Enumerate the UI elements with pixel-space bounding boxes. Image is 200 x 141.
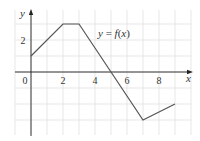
- x-tick-label: 8: [157, 75, 162, 86]
- y-axis-label: y: [19, 7, 25, 19]
- x-tick-label: 6: [125, 75, 130, 86]
- x-tick-label: 4: [93, 75, 98, 86]
- x-axis-label: x: [185, 72, 191, 84]
- x-tick-label: 0: [23, 75, 28, 86]
- y-axis-arrow-icon: [29, 9, 33, 15]
- function-label: y = f(x): [97, 27, 130, 40]
- y-tick-label: 2: [21, 35, 26, 46]
- function-graph: 024682 x y y = f(x): [0, 0, 200, 141]
- x-tick-label: 2: [61, 75, 66, 86]
